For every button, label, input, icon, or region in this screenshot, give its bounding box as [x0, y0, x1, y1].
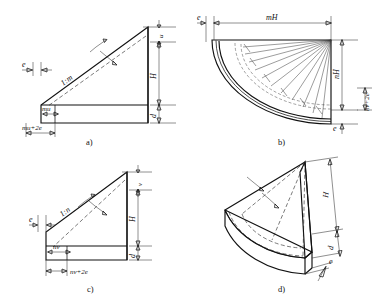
panel-d: H d e d)	[225, 157, 343, 294]
panel-d-ext-H-bot	[312, 229, 343, 234]
panel-d-skirt-band	[225, 210, 305, 274]
panel-d-base-join	[305, 252, 312, 258]
panel-c-label-e: e	[29, 215, 33, 224]
panel-a-label-u: u	[157, 34, 165, 38]
panel-d-skirt-arc-top	[225, 210, 305, 258]
panel-b-label-nv: nv+2e	[363, 93, 371, 111]
panel-a-label-d: d	[149, 113, 158, 118]
panel-d-leader-2-head	[275, 204, 280, 208]
panel-b-fan-line	[255, 40, 331, 70]
panel-b-fan-line	[271, 40, 331, 86]
panel-d-label-e: e	[329, 257, 333, 266]
panel-a-leader-dashed-tail	[100, 51, 106, 56]
panel-b-caption: b)	[278, 137, 285, 147]
panel-b: e mH nH nv+2e e b)	[197, 13, 372, 147]
panel-a-label-total: mu+2e	[22, 124, 42, 132]
panel-b-tick-mark	[316, 106, 322, 114]
panel-d-label-d: d	[326, 244, 335, 250]
panel-a-label-H: H	[149, 72, 158, 80]
panel-d-arrow-e	[319, 267, 326, 278]
panel-b-label-nH: nH	[332, 68, 341, 79]
panel-a-slope-label: 1:m	[59, 73, 75, 88]
panel-c-caption: c)	[87, 284, 94, 294]
panel-c-leader-dashed-tail	[89, 201, 95, 206]
panel-b-label-mH: mH	[266, 13, 279, 22]
panel-d-label-H: H	[321, 190, 331, 199]
panel-d-caption: d)	[278, 284, 285, 294]
panel-d-leader-1-tail	[247, 177, 253, 182]
panel-d-leader-2-tail	[262, 193, 268, 198]
panel-a-outline	[41, 27, 148, 123]
panel-b-tick-mark	[244, 44, 250, 52]
panel-d-arrow-d-down	[338, 251, 342, 257]
panel-d-dashed-gen-1	[242, 162, 305, 214]
panel-a-label-mu: mu	[42, 105, 51, 113]
panel-c-leader-dashed-head	[103, 211, 108, 215]
panel-a-leader-solid-tail	[90, 47, 96, 52]
panel-c-label-nv: nv	[53, 243, 61, 251]
panel-a-leader-dashed-head	[113, 61, 118, 65]
panel-c: 1:n v H d e nv	[29, 165, 152, 294]
panel-b-tick-mark	[250, 58, 256, 66]
panel-a-label-e: e	[22, 60, 26, 69]
panel-d-top-face	[225, 162, 312, 252]
panel-d-ext-d-bot	[312, 253, 340, 258]
panel-b-label-e-left: e	[197, 13, 201, 22]
panel-d-blade-face	[300, 162, 312, 258]
panel-c-leader-solid	[84, 195, 94, 202]
panel-a-caption: a)	[86, 137, 93, 147]
panel-d-ext-H-top	[305, 157, 338, 162]
panel-c-label-v: v	[136, 182, 144, 186]
panel-c-label-H: H	[128, 215, 137, 223]
panel-c-label-d: d	[128, 253, 137, 258]
panel-d-dim-H	[330, 160, 337, 232]
panel-a-leader-solid	[96, 40, 106, 47]
engineering-figure: 1:m u H d e mu	[0, 0, 389, 308]
panel-b-fan-line	[281, 40, 331, 93]
panel-a: 1:m u H d e mu	[22, 20, 176, 147]
panel-c-label-total: nv+2e	[70, 268, 88, 276]
panel-d-dashed-arc-1	[229, 212, 303, 256]
panel-c-slope-label: 1:n	[58, 205, 72, 219]
panel-b-label-e-bottom: e	[333, 124, 337, 133]
